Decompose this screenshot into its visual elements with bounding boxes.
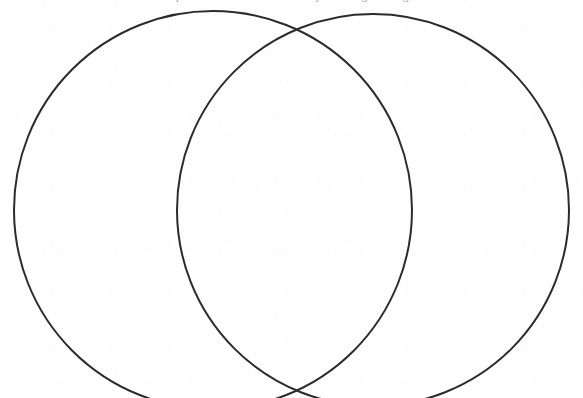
venn-region-right-only[interactable]	[390, 130, 550, 290]
venn-region-left-only[interactable]	[40, 130, 200, 290]
venn-region-intersection[interactable]	[224, 145, 364, 285]
scanned-page: compare and contrast the two subjects us…	[0, 0, 583, 398]
venn-diagram	[0, 0, 583, 398]
